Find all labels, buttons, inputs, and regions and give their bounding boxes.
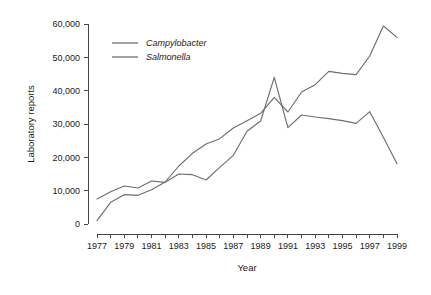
y-axis-ticks: 010,00020,00030,00040,00050,00060,000	[52, 19, 88, 229]
x-axis-ticks: 1977197919811983198519871989199119931995…	[87, 234, 407, 251]
chart-legend: CampylobacterSalmonella	[112, 38, 208, 62]
y-tick-label: 60,000	[52, 19, 80, 29]
y-tick-label: 20,000	[52, 153, 80, 163]
line-chart: 010,00020,00030,00040,00050,00060,000 19…	[0, 0, 431, 295]
legend-label-campylobacter: Campylobacter	[146, 38, 208, 48]
x-tick-label: 1981	[142, 241, 162, 251]
x-tick-label: 1985	[196, 241, 216, 251]
y-tick-label: 40,000	[52, 86, 80, 96]
x-tick-label: 1999	[387, 241, 407, 251]
y-tick-label: 50,000	[52, 53, 80, 63]
y-tick-label: 30,000	[52, 119, 80, 129]
x-tick-label: 1995	[332, 241, 352, 251]
chart-figure: 010,00020,00030,00040,00050,00060,000 19…	[0, 0, 431, 295]
x-tick-label: 1977	[87, 241, 107, 251]
series-line-salmonella	[97, 77, 397, 199]
y-axis-title: Laboratory reports	[25, 85, 36, 163]
x-tick-label: 1979	[114, 241, 134, 251]
series-lines	[97, 26, 397, 221]
y-tick-label: 0	[75, 219, 80, 229]
x-tick-label: 1989	[251, 241, 271, 251]
y-tick-label: 10,000	[52, 186, 80, 196]
x-axis-title: Year	[237, 262, 256, 273]
x-tick-label: 1993	[305, 241, 325, 251]
x-tick-label: 1997	[360, 241, 380, 251]
legend-label-salmonella: Salmonella	[146, 52, 191, 62]
x-tick-label: 1987	[223, 241, 243, 251]
x-tick-label: 1991	[278, 241, 298, 251]
series-line-campylobacter	[97, 26, 397, 221]
x-tick-label: 1983	[169, 241, 189, 251]
